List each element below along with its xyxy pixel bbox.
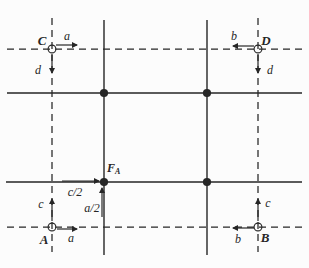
site-label-c: C — [38, 33, 47, 48]
vector-label-d-top-right: d — [267, 63, 274, 77]
vector-label-d-top-left: d — [35, 63, 42, 77]
vector-label-c-bottom-left: c — [38, 197, 44, 211]
site-label-a: A — [39, 232, 49, 247]
lattice-point — [100, 178, 108, 186]
lattice-point — [100, 89, 108, 97]
lattice-points-layer — [48, 45, 262, 231]
site-label-d: D — [260, 33, 271, 48]
vector-label-a-bottom: a — [68, 231, 74, 245]
lattice-figure: C D A B a d b d c a c b FA c/2 a/2 — [0, 0, 309, 268]
half-c-label: c/2 — [68, 185, 83, 199]
f-site-label: FA — [106, 161, 121, 176]
vector-arrows — [52, 45, 258, 229]
labels: C D A B a d b d c a c b FA c/2 a/2 — [35, 29, 274, 247]
half-a-label: a/2 — [84, 201, 99, 215]
lattice-point — [203, 178, 211, 186]
vector-label-c-bottom-right: c — [265, 196, 271, 210]
vector-label-b-bottom: b — [235, 232, 241, 246]
site-label-b: B — [260, 230, 270, 245]
vector-label-b-top: b — [231, 29, 237, 43]
vector-label-a-top: a — [64, 29, 70, 43]
lattice-point — [203, 89, 211, 97]
